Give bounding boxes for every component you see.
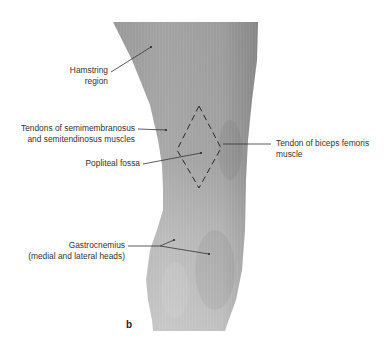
label-tendons-semimembranosus: Tendons of semimembranosus and semitendi… [21,123,135,145]
label-popliteal-fossa: Popliteal fossa [86,158,140,169]
label-line: and semitendinosus muscles [21,134,135,145]
label-hamstring-region: Hamstring region [70,65,108,87]
label-line: Tendon of biceps femoris [276,138,369,149]
label-line: Hamstring [70,65,108,76]
label-line: muscle [276,149,369,160]
panel-letter: b [126,319,132,330]
knee-posterior-figure [0,0,388,352]
label-tendon-biceps-femoris: Tendon of biceps femoris muscle [276,138,369,160]
label-line: Tendons of semimembranosus [21,123,135,134]
label-line: Gastrocnemius [28,240,125,251]
label-line: (medial and lateral heads) [28,251,125,262]
label-line: Popliteal fossa [86,158,140,169]
label-line: region [70,76,108,87]
label-gastrocnemius: Gastrocnemius (medial and lateral heads) [28,240,125,262]
